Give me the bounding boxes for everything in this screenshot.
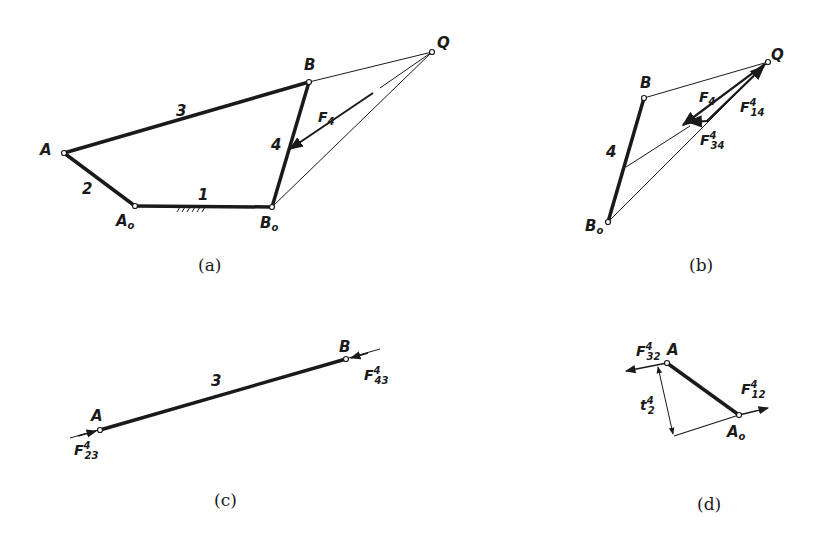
label-link-2: 2 [82,180,92,198]
label-b: B [304,56,315,74]
force-f34-arrow [688,121,708,122]
label-force-f34: F434 [700,130,725,151]
force-f32-arrow [626,363,667,371]
line-b-q [309,52,432,82]
label-b: B [640,74,651,92]
label-link-3: 3 [211,372,221,390]
label-q: Q [771,46,784,64]
link-3 [100,359,346,430]
joint-a [98,428,103,433]
joint-b [307,80,312,85]
label-b0: Bo [585,217,603,236]
label-force-f32: F432 [636,341,661,362]
joint-a [62,151,67,156]
joint-b [642,96,647,101]
label-link-4: 4 [270,136,281,154]
joint-a [665,361,670,366]
label-force-f12: F412 [741,379,766,400]
link-2 [667,363,739,415]
point-q [766,60,771,65]
label-link-4: 4 [605,143,616,161]
link-1-ground [135,206,272,207]
moment-arm-t2 [658,367,673,434]
label-link-1: 1 [198,186,208,204]
label-force-f4: F4 [699,89,716,107]
force-f12-arrow [739,408,768,415]
label-moment-arm-t2: t42 [640,395,655,416]
link-2 [64,153,135,206]
panel-c: A B 3 F423 F443 (c) [70,338,389,510]
label-q: Q [437,34,450,52]
caption-a: (a) [198,255,221,275]
label-force-f14: F414 [740,97,765,118]
label-a: A [666,341,679,359]
point-q [430,50,435,55]
label-a0: Ao [115,212,135,231]
label-a: A [90,407,103,425]
joint-b [344,357,349,362]
joint-b0 [270,205,275,210]
label-force-f23: F423 [74,440,99,461]
label-b: B [339,338,350,356]
label-a: A [39,141,52,159]
joint-a0 [133,204,138,209]
label-b0: Bo [260,214,278,233]
panel-b: B Q Bo 4 F4 F414 F434 (b) [585,46,784,275]
panel-d: A Ao F432 F412 t42 (d) [626,341,768,514]
line-force-q [380,52,432,88]
label-force-f43: F443 [364,365,389,386]
label-link-3: 3 [176,102,186,120]
panel-a: A B Q Ao Bo 3 2 1 4 F4 (a) [39,34,450,275]
force-f43-arrow [351,353,368,358]
label-a0: Ao [726,423,746,442]
four-bar-linkage-diagram: A B Q Ao Bo 3 2 1 4 F4 (a) B Q Bo 4 F4 F… [0,0,819,542]
joint-a0 [737,413,742,418]
caption-b: (b) [689,255,713,275]
force-f23-arrow [78,431,96,436]
caption-d: (d) [697,494,721,514]
caption-c: (c) [214,490,237,510]
joint-b0 [606,220,611,225]
label-force-f4: F4 [318,109,335,127]
